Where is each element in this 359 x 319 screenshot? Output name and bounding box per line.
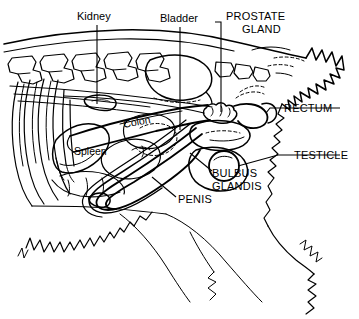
anatomy-diagram-canvas: Kidney Bladder PROSTATE GLAND RECTUM TES… [0, 0, 359, 319]
label-bulbus-glandis-line2: GLANDIS [212, 180, 262, 192]
vertebral-column [8, 52, 292, 84]
leader-penis [152, 177, 176, 197]
rectum-organ [234, 86, 277, 128]
label-colon: Colon [122, 113, 151, 130]
label-penis: PENIS [178, 193, 212, 205]
belly-fur-outline [18, 212, 152, 258]
label-rectum: RECTUM [284, 102, 332, 114]
label-prostate-gland-line1: PROSTATE [226, 10, 285, 22]
label-spleen: Spleen [74, 145, 107, 157]
hindleg-fur-right [264, 104, 322, 314]
anatomy-figure: Kidney Bladder PROSTATE GLAND RECTUM TES… [0, 0, 359, 319]
bladder-organ [146, 55, 212, 104]
label-prostate-gland-line2: GLAND [242, 23, 281, 35]
label-testicle: TESTICLE [294, 149, 348, 161]
label-bulbus-glandis-line1: BULBUS [212, 167, 257, 179]
hindleg-outlines [120, 214, 262, 302]
label-kidney: Kidney [77, 10, 111, 22]
label-bladder: Bladder [160, 12, 198, 24]
